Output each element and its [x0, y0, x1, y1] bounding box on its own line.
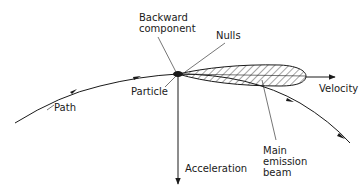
- label-main-emission-beam: Main emission beam: [263, 145, 307, 178]
- label-beam-line3: beam: [263, 167, 307, 178]
- label-velocity: Velocity: [319, 83, 358, 94]
- label-path: Path: [54, 102, 76, 113]
- label-backward-line2: component: [139, 23, 196, 34]
- label-backward-line1: Backward: [139, 12, 196, 23]
- label-acceleration: Acceleration: [185, 163, 247, 174]
- main-emission-beam: [178, 65, 306, 86]
- label-backward-component: Backward component: [139, 12, 196, 34]
- label-particle: Particle: [131, 86, 168, 97]
- leader-path: [47, 105, 54, 110]
- label-nulls: Nulls: [216, 30, 241, 41]
- label-beam-line2: emission: [263, 156, 307, 167]
- label-beam-line1: Main: [263, 145, 307, 156]
- leader-backward-component: [158, 37, 176, 72]
